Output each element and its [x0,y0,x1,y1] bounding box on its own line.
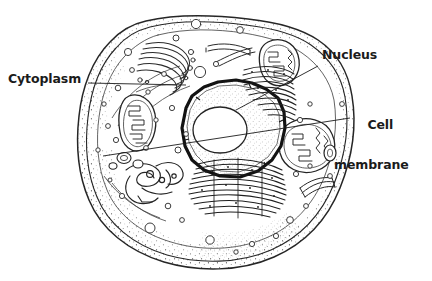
label-cell-membrane-line1: Cell [352,118,409,131]
nucleolus [193,107,247,153]
label-cell-membrane-line2: membrane [334,158,409,171]
cell-diagram-canvas: Cytoplasm Nucleus Cell membrane [0,0,432,281]
label-cell-membrane: Cell membrane [352,92,409,197]
mitochondrion-left [119,95,156,151]
mitochondrion-right [279,119,335,173]
label-cytoplasm: Cytoplasm [8,72,81,85]
label-nucleus: Nucleus [322,48,377,61]
